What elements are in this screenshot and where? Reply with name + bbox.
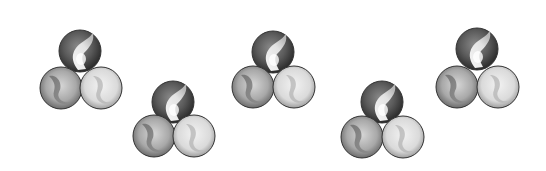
light-marble: [80, 67, 122, 109]
light-marble: [382, 116, 424, 158]
marble-group-3: [232, 31, 315, 108]
medium-marble: [232, 66, 274, 108]
medium-marble: [133, 115, 175, 157]
marble-group-5: [436, 28, 519, 108]
marble-group-1: [40, 30, 122, 109]
dark-marble: [456, 28, 498, 70]
marbles-scene: [0, 0, 546, 171]
dark-marble: [59, 30, 101, 72]
light-marble: [173, 115, 215, 157]
light-marble: [273, 66, 315, 108]
medium-marble: [341, 116, 383, 158]
marbles-illustration: [0, 0, 546, 171]
marble-group-2: [133, 81, 215, 157]
medium-marble: [40, 67, 82, 109]
light-marble: [477, 66, 519, 108]
medium-marble: [436, 66, 478, 108]
marble-group-4: [341, 81, 424, 158]
